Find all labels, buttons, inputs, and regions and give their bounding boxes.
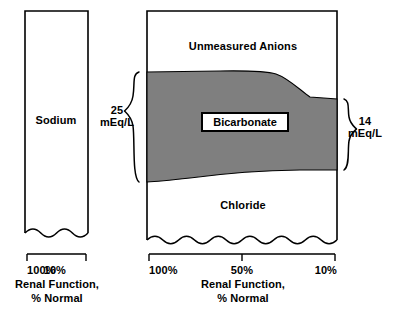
- sodium-region-label: Sodium: [36, 114, 77, 126]
- right-axis-caption-line1: Renal Function,: [201, 278, 285, 290]
- unmeasured-anions-region-label: Unmeasured Anions: [189, 40, 297, 52]
- chloride-region-label: Chloride: [220, 199, 265, 211]
- left-axis-bracket-line: [27, 254, 86, 261]
- left-axis-caption-line1: Renal Function,: [15, 278, 99, 290]
- right-axis-mid-label: 50%: [231, 264, 253, 276]
- right-axis-bracket: [149, 254, 335, 261]
- right-axis-min-label: 100%: [149, 264, 178, 276]
- left-axis-max-label: 10%: [44, 264, 66, 276]
- bicarbonate-label-box: Bicarbonate: [201, 112, 289, 132]
- right-axis-bracket-line: [149, 254, 335, 261]
- left-bracket-value: 25: [100, 104, 134, 116]
- right-bracket-unit: mEq/L: [348, 127, 382, 139]
- left-axis-caption-line2: % Normal: [31, 292, 83, 304]
- right-bracket-value: 14: [348, 115, 382, 127]
- right-axis-max-label: 10%: [315, 264, 337, 276]
- left-bracket-annotation: 25 mEq/L: [100, 104, 134, 129]
- anion-gap-figure: Sodium 100% 10% Renal Function, % Normal…: [0, 0, 393, 321]
- left-axis-bracket: [27, 254, 86, 261]
- right-axis-caption-line2: % Normal: [217, 292, 269, 304]
- right-bracket-annotation: 14 mEq/L: [348, 115, 382, 140]
- left-bracket-unit: mEq/L: [100, 116, 134, 128]
- bicarbonate-region-label: Bicarbonate: [213, 116, 277, 128]
